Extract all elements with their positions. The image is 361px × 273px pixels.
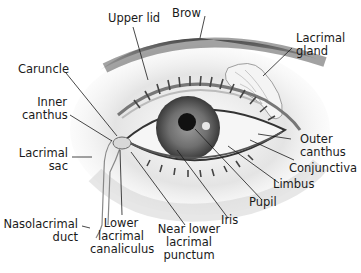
label-limbus: Limbus [273,178,314,191]
label-caruncle: Caruncle [18,63,66,76]
pupil [178,113,196,131]
label-lacrimal-sac: Lacrimal sac [12,147,68,173]
label-upper-lid: Upper lid [108,12,160,25]
label-lacrimal-gland: Lacrimal gland [296,32,345,58]
label-pupil: Pupil [249,196,277,209]
catchlight [202,122,210,130]
label-near-lower-lacrimal-punctum: Near lower lacrimal punctum [154,223,224,262]
label-conjunctiva: Conjunctiva [289,162,357,175]
caruncle [113,137,131,149]
label-brow: Brow [172,7,201,20]
label-inner-canthus: Inner canthus [22,96,67,122]
label-lower-lacrimal-canaliculus: Lower lacrimal canaliculus [90,217,152,256]
label-nasolacrimal-duct: Nasolacrimal duct [0,218,78,244]
label-outer-canthus: Outer canthus [300,133,346,159]
